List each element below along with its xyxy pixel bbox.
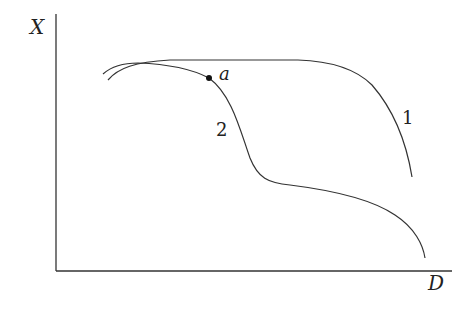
curve-1-label: 1 — [402, 107, 413, 128]
x-axis-label: D — [427, 271, 444, 295]
point-a-marker — [206, 75, 212, 81]
curve-2-label: 2 — [216, 119, 227, 140]
diagram-canvas: X D a 1 2 — [0, 0, 473, 309]
curve-2 — [103, 63, 425, 258]
y-axis-label: X — [28, 15, 45, 39]
point-a-label: a — [219, 63, 230, 84]
curve-1 — [108, 60, 412, 177]
